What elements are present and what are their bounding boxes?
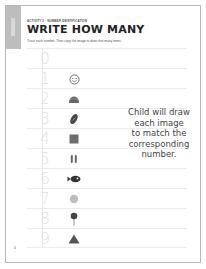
smiley-face-icon — [67, 72, 81, 86]
page-number: 4 — [14, 246, 16, 250]
taco-icon — [67, 92, 81, 106]
worksheet-page: Numbers ACTIVITY 2 • NUMBER IDENTIFICATI… — [5, 5, 201, 263]
circle-icon — [67, 192, 81, 206]
trace-digit: 7 — [27, 190, 63, 208]
trace-digit: 1 — [27, 70, 63, 88]
grid-row-2: 2 — [27, 88, 187, 108]
trace-digit: 3 — [27, 110, 63, 128]
note-line: to match the — [116, 128, 202, 139]
trace-digit: 5 — [27, 150, 63, 168]
page-title: WRITE HOW MANY — [27, 23, 145, 36]
grid-row-7: 7 — [27, 188, 187, 208]
instructions-text: Trace each number. Then copy the image t… — [27, 39, 121, 43]
grid-row-0: 0 — [27, 48, 187, 68]
side-tab-label: Numbers — [11, 18, 15, 36]
shoe-prints-icon — [67, 152, 81, 166]
trace-digit: 0 — [27, 50, 63, 68]
fish-icon — [67, 172, 81, 186]
trace-digit: 6 — [27, 170, 63, 188]
note-line: each image — [116, 118, 202, 129]
square-icon — [67, 132, 81, 146]
grid-row-1: 1 — [27, 68, 187, 88]
drawing-note: Child will draw each image to match the … — [116, 107, 202, 160]
grid-row-9: 9 — [27, 228, 187, 248]
trace-digit: 4 — [27, 130, 63, 148]
trace-digit: 8 — [27, 210, 63, 228]
note-line: corresponding — [116, 139, 202, 150]
triangle-icon — [67, 232, 81, 246]
grid-row-6: 6 — [27, 168, 187, 188]
trace-digit: 2 — [27, 90, 63, 108]
note-line: Child will draw — [116, 107, 202, 118]
lollipop-icon — [67, 212, 81, 226]
football-icon — [67, 112, 81, 126]
grid-row-8: 8 — [27, 208, 187, 228]
side-tab: Numbers — [6, 6, 21, 49]
trace-digit: 9 — [27, 230, 63, 248]
note-line: number. — [116, 149, 202, 160]
